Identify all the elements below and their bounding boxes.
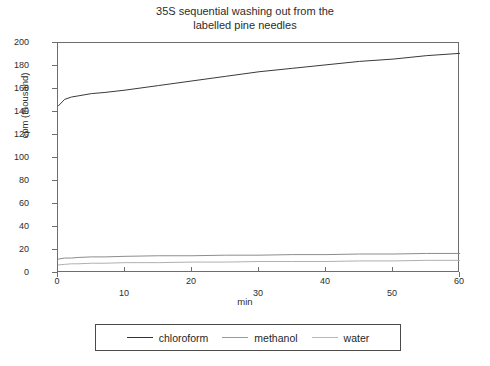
series-line-methanol — [58, 253, 460, 259]
legend-line-icon-water — [312, 337, 338, 338]
legend-line-icon-methanol — [222, 337, 248, 338]
legend-label-chloroform: chloroform — [159, 332, 209, 344]
y-tick-mark — [52, 88, 57, 89]
x-tick-label: 20 — [171, 276, 211, 286]
legend-label-methanol: methanol — [254, 332, 297, 344]
x-tick-mark — [325, 267, 326, 272]
y-tick-label: 60 — [0, 198, 29, 208]
legend: chloroform methanol water — [95, 324, 401, 351]
x-tick-label: 60 — [439, 276, 479, 286]
y-tick-mark — [52, 111, 57, 112]
chart-title: 35S sequential washing out from the labe… — [0, 4, 490, 32]
y-tick-mark — [52, 226, 57, 227]
y-tick-label: 0 — [0, 267, 29, 277]
x-tick-mark — [124, 267, 125, 272]
series-line-chloroform — [58, 53, 460, 106]
y-tick-label: 20 — [0, 244, 29, 254]
y-tick-mark — [52, 180, 57, 181]
series-layer — [58, 43, 460, 273]
y-tick-label: 80 — [0, 175, 29, 185]
y-tick-mark — [52, 203, 57, 204]
y-tick-mark — [52, 42, 57, 43]
chart-figure: 35S sequential washing out from the labe… — [0, 0, 490, 366]
y-tick-mark — [52, 134, 57, 135]
legend-item-water: water — [312, 332, 370, 344]
y-tick-label: 40 — [0, 221, 29, 231]
y-axis-title: cpm (thousand) — [19, 36, 30, 176]
x-tick-mark — [191, 267, 192, 272]
x-axis-title: min — [0, 296, 490, 307]
x-tick-label: 0 — [37, 276, 77, 286]
x-tick-mark — [258, 267, 259, 272]
plot-area — [57, 42, 459, 272]
series-line-water — [58, 260, 460, 265]
legend-line-icon-chloroform — [127, 337, 153, 338]
y-tick-mark — [52, 249, 57, 250]
y-tick-mark — [52, 65, 57, 66]
legend-label-water: water — [344, 332, 370, 344]
legend-item-methanol: methanol — [222, 332, 297, 344]
x-tick-label: 40 — [305, 276, 345, 286]
x-tick-mark — [392, 267, 393, 272]
y-tick-mark — [52, 157, 57, 158]
legend-item-chloroform: chloroform — [127, 332, 209, 344]
